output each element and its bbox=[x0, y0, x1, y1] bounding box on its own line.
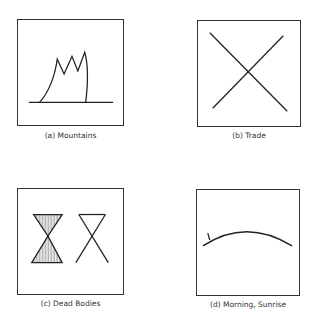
caption-c: (c) Dead Bodies bbox=[17, 299, 124, 308]
panel-b-box bbox=[197, 20, 301, 127]
panel-c-box bbox=[17, 188, 124, 295]
panel-a-box bbox=[17, 19, 124, 126]
caption-a: (a) Mountains bbox=[17, 131, 124, 140]
panel-d-box bbox=[196, 189, 300, 296]
trade-cross-icon bbox=[198, 21, 300, 126]
sunrise-arc-icon bbox=[197, 190, 299, 295]
dead-bodies-icon bbox=[18, 189, 123, 294]
mountains-icon bbox=[18, 20, 123, 125]
caption-d: (d) Morning, Sunrise bbox=[196, 300, 300, 309]
caption-b: (b) Trade bbox=[197, 131, 301, 140]
